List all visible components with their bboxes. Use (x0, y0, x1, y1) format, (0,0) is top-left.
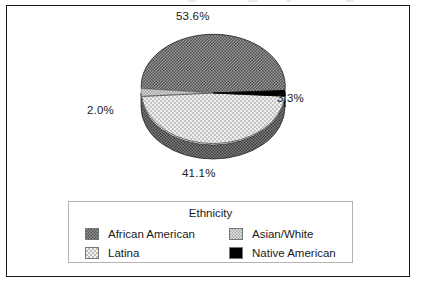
scan-artifact (248, 0, 258, 2)
pie-svg (130, 22, 300, 172)
pie-label-african-american: 53.6% (176, 10, 210, 22)
legend-item-label: Native American (252, 247, 336, 259)
legend-swatch-icon (229, 247, 243, 259)
pie-label-asian-white: 2.0% (87, 104, 114, 116)
legend-item-asian-white[interactable]: Asian/White (221, 228, 354, 240)
legend-item-label: African American (108, 228, 195, 240)
legend-items: African American Asian/White Latina Nati… (69, 224, 352, 262)
legend-item-native-american[interactable]: Native American (221, 247, 354, 259)
legend-item-label: Latina (108, 247, 139, 259)
scan-artifact (346, 0, 354, 2)
legend-swatch-icon (85, 228, 99, 240)
scan-artifact (286, 0, 291, 2)
pie-chart-figure: 53.6% 3.3% 2.0% 41.1% Ethnicity African … (0, 0, 425, 285)
legend: Ethnicity African American Asian/White L… (68, 201, 353, 263)
legend-swatch-icon (229, 228, 243, 240)
legend-swatch-icon (85, 247, 99, 259)
legend-item-latina[interactable]: Latina (69, 247, 221, 259)
legend-item-label: Asian/White (252, 228, 313, 240)
pie-slice-african-american (141, 34, 285, 93)
legend-title: Ethnicity (69, 207, 352, 220)
pie-label-native-american: 3.3% (277, 92, 304, 104)
legend-item-african-american[interactable]: African American (69, 228, 221, 240)
pie-graphic (130, 22, 300, 172)
scan-artifact (188, 0, 196, 2)
pie-top-faces (141, 34, 285, 143)
pie-label-latina: 41.1% (182, 167, 216, 179)
